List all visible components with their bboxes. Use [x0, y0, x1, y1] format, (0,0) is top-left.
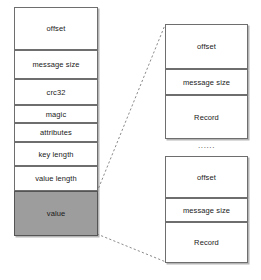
message-field-attributes: attributes — [14, 123, 98, 142]
field-label: magic — [46, 110, 67, 119]
log-entry-1-offset: offset — [165, 24, 248, 69]
field-label: Record — [194, 238, 219, 247]
log-entry-2-message-size: message size — [165, 198, 248, 222]
message-field-message-size: message size — [14, 50, 98, 79]
log-entry-1-record: Record — [165, 95, 248, 139]
field-label: message size — [183, 78, 230, 87]
field-label: value length — [35, 174, 77, 183]
message-field-value-length: value length — [14, 166, 98, 191]
field-label: value — [47, 209, 65, 218]
log-entry-2-record: Record — [165, 222, 248, 263]
log-entry-1-message-size: message size — [165, 69, 248, 95]
log-entry-2-offset: offset — [165, 156, 248, 198]
message-field-offset: offset — [14, 7, 98, 50]
lower-expansion-line — [97, 234, 166, 262]
diagram-canvas: offset message size crc32 magic attribut… — [0, 0, 261, 280]
field-label: offset — [197, 42, 216, 51]
message-field-key-length: key length — [14, 142, 98, 166]
field-label: key length — [38, 150, 73, 159]
ellipsis-separator: ...... — [165, 141, 248, 151]
message-field-magic: magic — [14, 105, 98, 123]
log-entry-group-1: offset message size Record — [165, 24, 248, 139]
message-field-crc32: crc32 — [14, 79, 98, 105]
field-label: attributes — [40, 128, 72, 137]
field-label: offset — [47, 24, 66, 33]
field-label: Record — [194, 113, 219, 122]
field-label: offset — [197, 173, 216, 182]
field-label: crc32 — [47, 88, 66, 97]
log-entry-group-2: offset message size Record — [165, 156, 248, 263]
field-label: message size — [32, 60, 79, 69]
field-label: message size — [183, 206, 230, 215]
upper-expansion-line — [97, 25, 165, 192]
message-field-stack: offset message size crc32 magic attribut… — [14, 7, 98, 237]
message-field-value: value — [14, 191, 98, 236]
